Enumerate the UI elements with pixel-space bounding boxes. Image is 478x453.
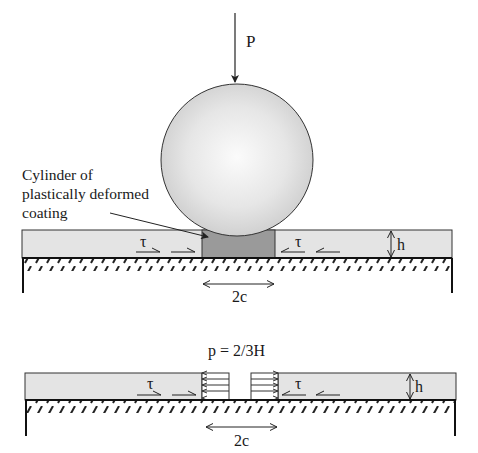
thickness-label: h bbox=[397, 236, 405, 253]
annotation-line-2: plastically deformed bbox=[22, 185, 149, 202]
top-figure: P Cylinder of plastically deformed coati… bbox=[22, 13, 452, 305]
annotation-line-3: coating bbox=[22, 204, 68, 221]
shear-label-left: τ bbox=[147, 375, 154, 392]
pressure-label: p = 2/3H bbox=[208, 342, 265, 360]
coating-layer-right bbox=[278, 373, 456, 400]
sphere-indenter bbox=[161, 84, 313, 236]
bottom-figure: p = 2/3H τ τ bbox=[25, 342, 456, 449]
shear-label-right: τ bbox=[295, 375, 302, 392]
shear-label-left: τ bbox=[140, 233, 147, 250]
contact-width-label: 2c bbox=[234, 432, 249, 449]
indentation-diagram: P Cylinder of plastically deformed coati… bbox=[0, 0, 478, 453]
pressure-distribution-left bbox=[202, 371, 229, 400]
substrate-hatch bbox=[22, 259, 452, 271]
thickness-label: h bbox=[415, 378, 423, 395]
annotation-line-1: Cylinder of bbox=[22, 166, 94, 183]
coating-layer-left bbox=[25, 373, 202, 400]
contact-width-label: 2c bbox=[232, 288, 247, 305]
shear-label-right: τ bbox=[295, 233, 302, 250]
substrate-hatch bbox=[25, 401, 456, 413]
load-label: P bbox=[246, 32, 255, 51]
pressure-distribution-right bbox=[251, 371, 278, 400]
annotation-label: Cylinder of plastically deformed coating bbox=[22, 166, 153, 221]
